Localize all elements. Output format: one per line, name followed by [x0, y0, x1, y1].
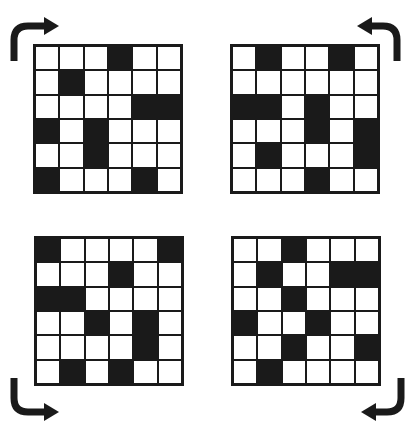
grid-cell — [234, 336, 256, 358]
grid-cell — [61, 263, 83, 285]
grid-top-left — [33, 44, 183, 194]
grid-cell — [282, 120, 304, 142]
grid-cell — [331, 312, 353, 334]
grid-cell — [110, 361, 132, 383]
grid-cell — [283, 288, 305, 310]
grid-cell — [307, 239, 329, 261]
grid-cell — [36, 144, 58, 166]
grid-cell — [110, 263, 132, 285]
grid-cell — [134, 361, 156, 383]
grid-cell — [134, 336, 156, 358]
grid-cell — [85, 96, 107, 118]
grid-cell — [283, 312, 305, 334]
grid-cell — [355, 144, 377, 166]
grid-cell — [134, 288, 156, 310]
grid-cell — [61, 288, 83, 310]
grid-cell — [134, 263, 156, 285]
grid-cell — [158, 120, 180, 142]
grid-cell — [86, 336, 108, 358]
grid-cell — [86, 288, 108, 310]
grid-cell — [258, 312, 280, 334]
grid-cell — [133, 144, 155, 166]
grid-cell — [233, 169, 255, 191]
grid-cell — [37, 288, 59, 310]
grid-cell — [356, 263, 378, 285]
grid-cell — [258, 336, 280, 358]
grid-cell — [60, 169, 82, 191]
grid-cell — [159, 263, 181, 285]
grid-cell — [133, 47, 155, 69]
grid-bottom-right — [231, 236, 381, 386]
grid-cell — [134, 312, 156, 334]
grid-cell — [109, 120, 131, 142]
grid-cell — [36, 169, 58, 191]
grid-cell — [356, 361, 378, 383]
grid-cell — [85, 71, 107, 93]
grid-cell — [356, 239, 378, 261]
grid-cell — [61, 336, 83, 358]
grid-cell — [110, 239, 132, 261]
grid-cell — [60, 120, 82, 142]
grid-cell — [306, 144, 328, 166]
grid-cell — [282, 96, 304, 118]
grid-cell — [330, 96, 352, 118]
grid-cell — [257, 47, 279, 69]
grid-cell — [257, 169, 279, 191]
grid-cell — [356, 312, 378, 334]
grid-cell — [282, 169, 304, 191]
grid-cell — [331, 361, 353, 383]
grid-cell — [110, 312, 132, 334]
grid-cell — [86, 263, 108, 285]
grid-cell — [233, 47, 255, 69]
grid-cell — [307, 336, 329, 358]
grid-cell — [109, 144, 131, 166]
grid-cell — [307, 263, 329, 285]
grid-cell — [158, 47, 180, 69]
grid-cell — [234, 361, 256, 383]
grid-cell — [282, 71, 304, 93]
grid-cell — [356, 336, 378, 358]
grid-cell — [159, 361, 181, 383]
grid-cell — [283, 361, 305, 383]
grid-cell — [133, 96, 155, 118]
grid-cell — [306, 120, 328, 142]
grid-cell — [109, 96, 131, 118]
grid-cell — [233, 71, 255, 93]
grid-cell — [109, 47, 131, 69]
grid-cell — [36, 96, 58, 118]
grid-cell — [233, 96, 255, 118]
grid-cell — [37, 336, 59, 358]
grid-bottom-left — [34, 236, 184, 386]
grid-cell — [159, 239, 181, 261]
grid-cell — [257, 96, 279, 118]
grid-cell — [85, 120, 107, 142]
grid-cell — [109, 169, 131, 191]
grid-cell — [60, 71, 82, 93]
grid-cell — [234, 312, 256, 334]
grid-cell — [234, 263, 256, 285]
grid-cell — [36, 71, 58, 93]
grid-cell — [306, 96, 328, 118]
grid-cell — [306, 169, 328, 191]
grid-top-right — [230, 44, 380, 194]
grid-cell — [158, 96, 180, 118]
grid-cell — [159, 312, 181, 334]
grid-cell — [133, 169, 155, 191]
grid-cell — [282, 144, 304, 166]
grid-cell — [356, 288, 378, 310]
grid-cell — [133, 120, 155, 142]
grid-cell — [36, 120, 58, 142]
grid-cell — [330, 169, 352, 191]
grid-cell — [331, 239, 353, 261]
grid-cell — [234, 239, 256, 261]
grid-cell — [110, 288, 132, 310]
grid-cell — [61, 312, 83, 334]
grid-cell — [307, 288, 329, 310]
grid-cell — [37, 361, 59, 383]
grid-cell — [258, 361, 280, 383]
grid-cell — [283, 239, 305, 261]
grid-cell — [110, 336, 132, 358]
grid-cell — [331, 263, 353, 285]
grid-cell — [233, 120, 255, 142]
grid-cell — [86, 239, 108, 261]
